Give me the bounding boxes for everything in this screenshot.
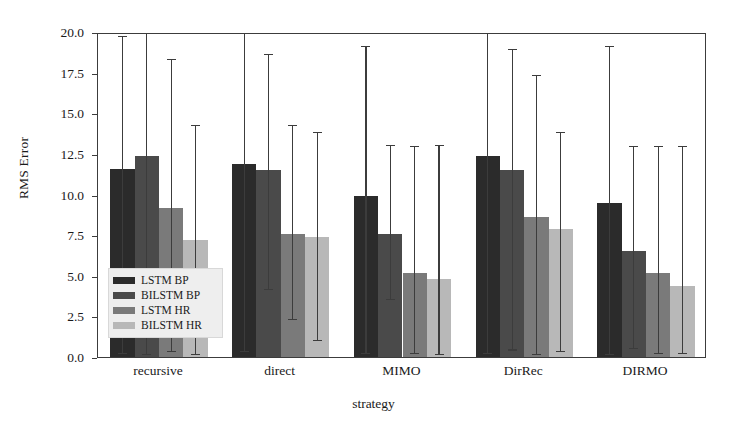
y-tick-label: 10.0	[42, 189, 84, 203]
error-bar-cap-low	[435, 354, 444, 355]
error-bar-cap-low	[313, 340, 322, 341]
error-bar-cap-high	[605, 46, 614, 47]
error-bar-cap-high	[264, 54, 273, 55]
x-axis-label: strategy	[0, 396, 747, 412]
legend: LSTM BPBILSTM BPLSTM HRBILSTM HR	[108, 268, 223, 338]
error-bar-cap-high	[556, 132, 565, 133]
error-bar-stem	[560, 133, 561, 352]
error-bar-cap-high	[629, 146, 638, 147]
y-tick-label: 2.5	[42, 310, 84, 324]
y-tick-label: 20.0	[42, 26, 84, 40]
error-bar-cap-low	[508, 349, 517, 350]
error-bar-cap-low	[264, 289, 273, 290]
error-bar-cap-high	[288, 125, 297, 126]
error-bar-stem	[317, 133, 318, 341]
legend-item: BILSTM HR	[113, 318, 217, 333]
chart-figure: RMS Error 0.02.55.07.510.012.515.017.520…	[0, 0, 747, 441]
error-bar-cap-low	[386, 299, 395, 300]
error-bar-cap-low	[361, 353, 370, 354]
error-bar-cap-high	[386, 145, 395, 146]
error-bar-cap-low	[288, 319, 297, 320]
legend-item: LSTM BP	[113, 273, 217, 288]
legend-swatch	[113, 307, 135, 314]
error-bar-cap-low	[142, 354, 151, 355]
error-bar-cap-high	[678, 146, 687, 147]
error-bar-cap-high	[435, 145, 444, 146]
y-tick-label: 5.0	[42, 270, 84, 284]
y-axis-label: RMS Error	[16, 108, 32, 228]
error-bar-cap-low	[410, 353, 419, 354]
error-bar-cap-high	[410, 146, 419, 147]
error-bar-stem	[658, 147, 659, 353]
y-tick-label: 12.5	[42, 148, 84, 162]
error-bar-stem	[682, 147, 683, 353]
error-bar-cap-low	[654, 353, 663, 354]
error-bar-cap-low	[483, 353, 492, 354]
error-bar-stem	[487, 34, 488, 354]
error-bar-cap-low	[191, 354, 200, 355]
legend-label: LSTM HR	[141, 305, 191, 317]
error-bar-cap-high	[118, 36, 127, 37]
error-bar-stem	[390, 146, 391, 300]
error-bar-stem	[536, 76, 537, 356]
error-bar-cap-high	[313, 132, 322, 133]
error-bar-stem	[244, 34, 245, 352]
legend-swatch	[113, 292, 135, 299]
legend-swatch	[113, 277, 135, 284]
error-bar-cap-low	[605, 354, 614, 355]
error-bar-cap-low	[532, 354, 541, 355]
error-bar-stem	[609, 47, 610, 356]
error-bar-stem	[512, 50, 513, 351]
legend-item: LSTM HR	[113, 303, 217, 318]
legend-item: BILSTM BP	[113, 288, 217, 303]
y-tick-label: 17.5	[42, 67, 84, 81]
legend-label: LSTM BP	[141, 275, 189, 287]
x-tick-label: MIMO	[341, 364, 463, 378]
x-tick-label: DIRMO	[584, 364, 706, 378]
error-bar-stem	[268, 55, 269, 291]
error-bar-stem	[438, 146, 439, 356]
error-bar-cap-low	[556, 351, 565, 352]
error-bar-cap-high	[167, 59, 176, 60]
error-bar-cap-high	[654, 146, 663, 147]
y-tick-label: 15.0	[42, 107, 84, 121]
y-tick-label: 7.5	[42, 229, 84, 243]
error-bar-stem	[292, 126, 293, 319]
legend-label: BILSTM BP	[141, 290, 200, 302]
legend-swatch	[113, 322, 135, 329]
error-bar-cap-high	[191, 125, 200, 126]
error-bar-cap-high	[361, 46, 370, 47]
x-tick-label: DirRec	[462, 364, 584, 378]
error-bar-stem	[633, 147, 634, 349]
x-tick-label: direct	[219, 364, 341, 378]
error-bar-stem	[365, 47, 366, 354]
y-tick-label: 0.0	[42, 351, 84, 365]
error-bar-cap-low	[118, 353, 127, 354]
error-bar-cap-low	[240, 351, 249, 352]
error-bar-cap-high	[532, 75, 541, 76]
x-tick-label: recursive	[97, 364, 219, 378]
y-tick-mark	[92, 358, 97, 359]
error-bar-cap-low	[167, 351, 176, 352]
error-bar-cap-low	[678, 353, 687, 354]
error-bar-stem	[414, 147, 415, 353]
error-bar-cap-low	[629, 348, 638, 349]
legend-label: BILSTM HR	[141, 320, 202, 332]
error-bar-cap-high	[508, 49, 517, 50]
